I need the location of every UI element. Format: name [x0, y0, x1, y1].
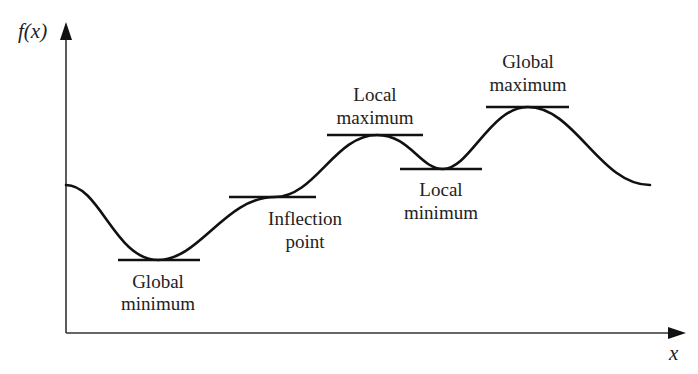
label-local-maximum: Local maximum	[336, 84, 413, 128]
label-line: Local	[353, 84, 396, 105]
x-axis-label: x	[668, 341, 679, 365]
label-line: maximum	[489, 74, 566, 95]
label-global-minimum: Global minimum	[121, 271, 195, 314]
x-axis-arrow-icon	[668, 327, 686, 339]
label-line: minimum	[121, 293, 195, 314]
tangent-lines	[118, 107, 569, 260]
label-line: minimum	[404, 202, 478, 223]
label-global-maximum: Global maximum	[489, 51, 566, 95]
y-axis-arrow-icon	[60, 22, 72, 40]
label-line: Global	[132, 271, 184, 292]
label-line: Global	[502, 51, 554, 72]
extrema-diagram: f(x) x Global minimum Inflection point L…	[0, 0, 698, 374]
label-local-minimum: Local minimum	[404, 179, 478, 223]
y-axis-label: f(x)	[18, 19, 47, 43]
label-line: Inflection	[268, 208, 342, 229]
label-line: Local	[419, 179, 462, 200]
label-line: maximum	[336, 107, 413, 128]
function-curve	[66, 107, 650, 260]
label-line: point	[285, 231, 325, 252]
label-inflection-point: Inflection point	[268, 208, 342, 252]
